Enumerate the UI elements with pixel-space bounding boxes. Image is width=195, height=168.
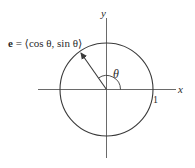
angle-label: θ [113,67,119,81]
y-axis-label: y [100,7,106,19]
x-axis-label: x [177,83,183,95]
unit-vector-arrow [81,53,107,90]
unit-circle-diagram: e = ⟨cos θ, sin θ⟩ θ x y 1 [0,0,195,168]
vector-label: e = ⟨cos θ, sin θ⟩ [8,37,82,49]
unit-label: 1 [153,94,158,105]
